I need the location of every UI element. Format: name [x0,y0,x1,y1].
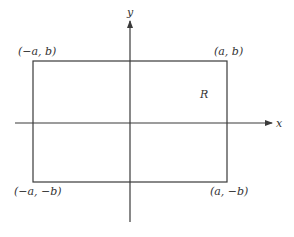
corner-label-top-right: (a, b) [214,45,243,58]
region-label: R [199,88,208,101]
coordinate-diagram: y x R (−a, b) (a, b) (−a, −b) (a, −b) [0,0,294,237]
corner-label-top-left: (−a, b) [18,45,56,58]
corner-label-bottom-left: (−a, −b) [14,185,62,198]
x-axis-label: x [276,117,283,130]
y-axis-label: y [126,6,134,19]
corner-label-bottom-right: (a, −b) [210,185,248,198]
